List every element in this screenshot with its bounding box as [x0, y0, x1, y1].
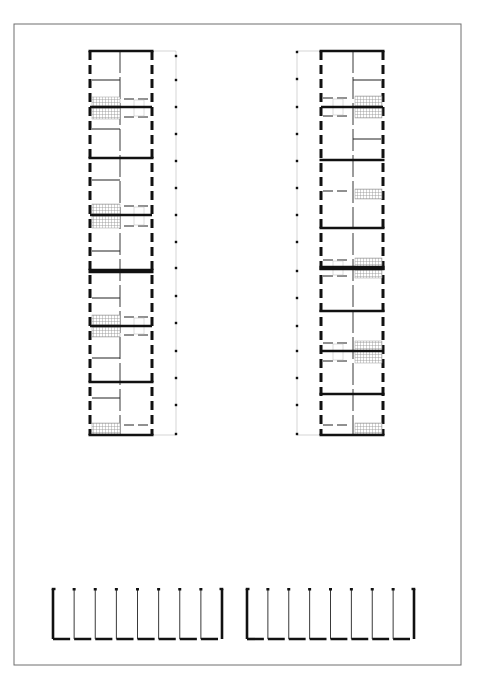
column-marker	[175, 377, 177, 379]
divider-cap	[157, 588, 160, 591]
column-marker	[296, 187, 298, 189]
column-marker	[296, 433, 298, 435]
column-marker	[296, 325, 298, 327]
left-block	[89, 51, 178, 435]
divider-cap	[329, 588, 332, 591]
divider-cap	[136, 588, 139, 591]
column-marker	[296, 350, 298, 352]
column-marker	[296, 106, 298, 108]
floor-plan-sheet	[0, 0, 477, 680]
column-marker	[296, 51, 298, 53]
column-marker	[175, 160, 177, 162]
garage-row-left	[52, 588, 224, 639]
column-marker	[175, 133, 177, 135]
divider-cap	[115, 588, 118, 591]
column-marker	[175, 433, 177, 435]
residential-blocks	[89, 51, 385, 435]
stair-hatch	[92, 423, 120, 434]
divider-cap	[287, 588, 290, 591]
column-marker	[296, 270, 298, 272]
sheet-frame	[14, 24, 461, 665]
divider-cap	[266, 588, 269, 591]
column-marker	[175, 187, 177, 189]
column-marker	[175, 322, 177, 324]
column-marker	[175, 214, 177, 216]
divider-cap	[308, 588, 311, 591]
divider-cap	[94, 588, 97, 591]
column-marker	[296, 160, 298, 162]
divider-cap	[178, 588, 181, 591]
column-marker	[175, 404, 177, 406]
floor-plan-drawing	[0, 0, 477, 680]
column-marker	[296, 133, 298, 135]
column-marker	[175, 106, 177, 108]
column-marker	[175, 295, 177, 297]
stair-hatch	[355, 189, 382, 199]
column-marker	[296, 404, 298, 406]
right-block	[296, 51, 385, 435]
column-marker	[296, 241, 298, 243]
garage-rows	[52, 588, 416, 639]
column-marker	[296, 297, 298, 299]
divider-cap	[392, 588, 395, 591]
divider-cap	[371, 588, 374, 591]
column-marker	[296, 214, 298, 216]
divider-cap	[199, 588, 202, 591]
column-marker	[175, 241, 177, 243]
divider-cap	[350, 588, 353, 591]
column-marker	[175, 79, 177, 81]
stair-hatch	[355, 423, 382, 434]
column-marker	[296, 377, 298, 379]
divider-cap	[73, 588, 76, 591]
column-marker	[175, 55, 177, 57]
garage-row-right	[246, 588, 416, 639]
column-marker	[175, 267, 177, 269]
column-marker	[175, 350, 177, 352]
column-marker	[296, 78, 298, 80]
